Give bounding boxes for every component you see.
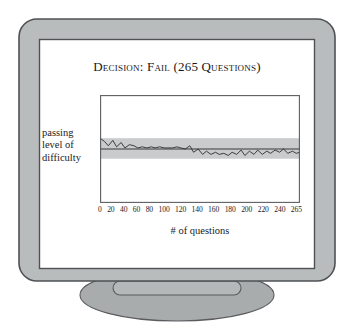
x-tick-200: 200 [241,205,252,214]
monitor-stand-neck [113,281,241,295]
x-tick-265: 265 [291,205,302,214]
y-axis-label-line-2: level of [42,139,100,151]
x-tick-20: 20 [107,205,114,214]
x-tick-120: 120 [175,205,186,214]
chart-title: Decision: Fail (265 Questions) [40,59,314,75]
monitor-illustration-scene: Decision: Fail (265 Questions) passing l… [0,0,354,334]
y-axis-label: passing level of difficulty [42,127,100,164]
plot-svg [100,95,300,203]
screen-content: Decision: Fail (265 Questions) passing l… [40,40,314,268]
x-axis-tick-labels: 020406080100120140160180200220240265 [98,205,302,217]
x-tick-160: 160 [208,205,219,214]
x-tick-40: 40 [120,205,127,214]
plot-area [100,95,300,203]
x-tick-0: 0 [98,205,102,214]
x-axis-title: # of questions [100,225,300,236]
x-tick-80: 80 [146,205,153,214]
x-tick-240: 240 [274,205,285,214]
x-tick-60: 60 [133,205,140,214]
x-tick-220: 220 [258,205,269,214]
x-tick-180: 180 [225,205,236,214]
y-axis-label-line-3: difficulty [42,152,100,164]
x-tick-100: 100 [159,205,170,214]
y-axis-label-line-1: passing [42,127,100,139]
x-tick-140: 140 [192,205,203,214]
